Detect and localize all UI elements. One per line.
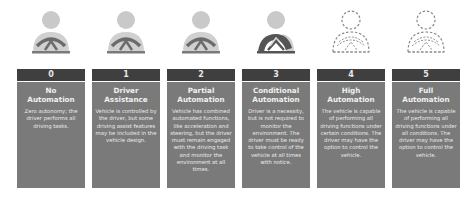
level-description: Zero autonomy; the driver performs all d… — [17, 108, 85, 130]
level-description: The vehicle is capable of performing all… — [392, 108, 460, 159]
level-column-4: 4 High Automation The vehicle is capable… — [317, 0, 385, 198]
level-number: 3 — [242, 69, 310, 81]
driver-dashed-icon — [327, 8, 375, 56]
level-description: The vehicle is capable of performing all… — [317, 108, 385, 159]
level-column-5: 5 Full Automation The vehicle is capable… — [392, 0, 460, 198]
level-number: 5 — [392, 69, 460, 81]
level-title-line2: Automation — [169, 95, 233, 104]
level-card: Conditional Automation Driver is a neces… — [242, 82, 310, 188]
driver-solid-icon — [177, 8, 225, 56]
level-title-line2: Automation — [19, 95, 83, 104]
level-card: Full Automation The vehicle is capable o… — [392, 82, 460, 188]
level-column-0: 0 No Automation Zero autonomy; the drive… — [17, 0, 85, 198]
level-description: Vehicle has combined automated functions… — [167, 108, 235, 174]
level-title-line1: Conditional — [244, 86, 308, 95]
level-number: 2 — [167, 69, 235, 81]
level-card: High Automation The vehicle is capable o… — [317, 82, 385, 188]
level-title-line2: Assistance — [94, 95, 158, 104]
level-column-2: 2 Partial Automation Vehicle has combine… — [167, 0, 235, 198]
level-title-line1: No — [19, 86, 83, 95]
level-title-line1: Partial — [169, 86, 233, 95]
level-title: Full Automation — [392, 86, 460, 104]
level-number: 4 — [317, 69, 385, 81]
level-number: 0 — [17, 69, 85, 81]
level-card: No Automation Zero autonomy; the driver … — [17, 82, 85, 188]
driver-solid-icon — [27, 8, 75, 56]
level-column-1: 1 Driver Assistance Vehicle is controlle… — [92, 0, 160, 198]
level-column-3: 3 Conditional Automation Driver is a nec… — [242, 0, 310, 198]
level-description: Vehicle is controlled by the driver, but… — [92, 108, 160, 144]
level-card: Partial Automation Vehicle has combined … — [167, 82, 235, 188]
level-card: Driver Assistance Vehicle is controlled … — [92, 82, 160, 188]
level-title: Driver Assistance — [92, 86, 160, 104]
driver-dashed-icon — [402, 8, 450, 56]
driver-wheel-dark-icon — [252, 8, 300, 56]
level-description: Driver is a necessity, but is not requir… — [242, 108, 310, 166]
driver-solid-icon — [102, 8, 150, 56]
level-title-line2: Automation — [394, 95, 458, 104]
level-title: No Automation — [17, 86, 85, 104]
level-title-line1: Driver — [94, 86, 158, 95]
level-title: High Automation — [317, 86, 385, 104]
level-title: Partial Automation — [167, 86, 235, 104]
level-title-line2: Automation — [244, 95, 308, 104]
level-title-line2: Automation — [319, 95, 383, 104]
level-title: Conditional Automation — [242, 86, 310, 104]
level-number: 1 — [92, 69, 160, 81]
level-title-line1: Full — [394, 86, 458, 95]
level-title-line1: High — [319, 86, 383, 95]
